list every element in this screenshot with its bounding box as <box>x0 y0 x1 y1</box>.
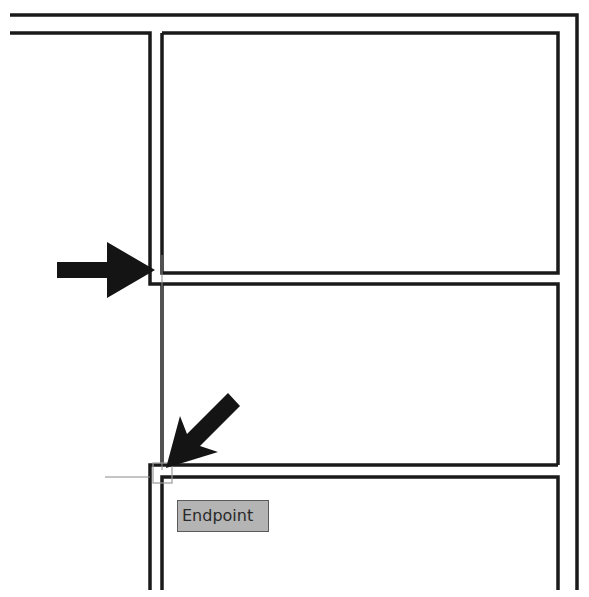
room-1-outline[interactable] <box>162 33 558 273</box>
inner-wall-left[interactable] <box>10 33 558 465</box>
lower-wall-inner[interactable] <box>162 477 558 590</box>
arrow-down-left-icon <box>166 393 240 468</box>
snap-tooltip: Endpoint <box>177 500 269 532</box>
outer-wall-line[interactable] <box>10 15 577 590</box>
drawing-canvas[interactable] <box>0 0 589 597</box>
arrow-right-icon <box>57 242 155 298</box>
